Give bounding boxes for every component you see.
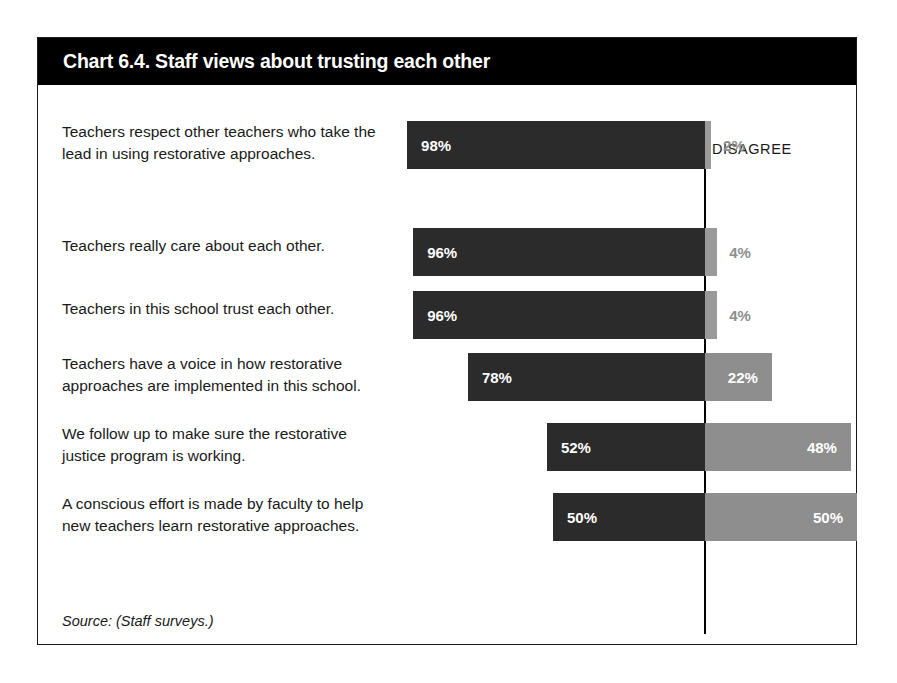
agree-value-label: 50% (567, 509, 597, 526)
agree-bar: 96% (413, 228, 705, 276)
chart-title: Chart 6.4. Staff views about trusting ea… (63, 50, 490, 73)
disagree-bar: 22% (705, 353, 772, 401)
agree-value-label: 96% (427, 244, 457, 261)
agree-bar: 98% (407, 121, 705, 169)
disagree-bar (705, 121, 711, 169)
disagree-bar: 50% (705, 493, 857, 541)
agree-bar: 52% (547, 423, 705, 471)
agree-value-label: 78% (482, 369, 512, 386)
agree-value-label: 52% (561, 439, 591, 456)
row-label: Teachers have a voice in how restorative… (62, 353, 392, 396)
chart-title-band: Chart 6.4. Staff views about trusting ea… (38, 38, 856, 85)
chart-card: Chart 6.4. Staff views about trusting ea… (37, 37, 857, 645)
disagree-bar: 48% (705, 423, 851, 471)
disagree-value-label: 50% (813, 509, 843, 526)
disagree-value-label: 22% (728, 369, 758, 386)
row-label: Teachers respect other teachers who take… (62, 121, 392, 164)
disagree-value-label: 4% (729, 244, 751, 261)
source-note: Source: (Staff surveys.) (62, 613, 214, 629)
agree-bar: 78% (468, 353, 705, 401)
row-label: Teachers in this school trust each other… (62, 298, 392, 320)
disagree-bar (705, 291, 717, 339)
agree-value-label: 98% (421, 137, 451, 154)
disagree-value-label: 4% (729, 307, 751, 324)
disagree-value-label: 48% (807, 439, 837, 456)
row-label: A conscious effort is made by faculty to… (62, 493, 392, 536)
chart-plot-area: AGREE DISAGREE Teachers respect other te… (38, 85, 856, 644)
agree-value-label: 96% (427, 307, 457, 324)
disagree-value-label: 2% (723, 137, 745, 154)
agree-bar: 96% (413, 291, 705, 339)
row-label: Teachers really care about each other. (62, 235, 392, 257)
disagree-bar (705, 228, 717, 276)
row-label: We follow up to make sure the restorativ… (62, 423, 392, 466)
agree-bar: 50% (553, 493, 705, 541)
